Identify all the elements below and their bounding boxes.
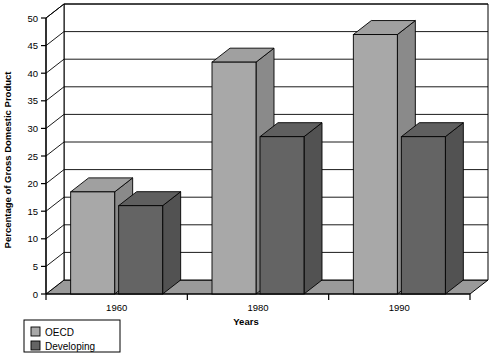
y-tick-label: 45 [27, 40, 38, 51]
legend-label-oecd: OECD [45, 327, 74, 338]
legend-label-developing: Developing [45, 341, 95, 352]
y-tick-label: 10 [27, 233, 38, 244]
y-axis [41, 18, 46, 294]
x-axis [46, 294, 470, 300]
y-tick-label: 40 [27, 68, 38, 79]
legend: OECDDeveloping [24, 320, 120, 352]
bar-side-face [163, 192, 181, 294]
y-tick-label: 5 [33, 261, 38, 272]
chart-container: 05101520253035404550 196019801990 Percen… [0, 0, 496, 355]
bar-side-face [304, 123, 322, 294]
y-tick-label: 25 [27, 151, 38, 162]
bar-developing-1960 [119, 192, 181, 294]
x-axis-title: Years [233, 316, 258, 327]
x-tick-label: 1990 [389, 302, 410, 313]
bar-side-face [445, 123, 463, 294]
bar-front-face [260, 137, 304, 294]
bar-front-face [401, 137, 445, 294]
x-tick-labels: 196019801990 [106, 302, 410, 313]
y-tick-labels: 05101520253035404550 [27, 13, 38, 300]
legend-swatch-oecd [31, 327, 40, 336]
y-tick-label: 30 [27, 123, 38, 134]
bar-front-face [119, 206, 163, 294]
bar-developing-1990 [401, 123, 463, 294]
y-tick-label: 15 [27, 206, 38, 217]
x-tick-label: 1960 [106, 302, 127, 313]
legend-swatch-developing [31, 341, 40, 350]
y-axis-title: Percentage of Gross Domestic Product [2, 71, 13, 249]
bar-front-face [71, 192, 115, 294]
bar-front-face [353, 35, 397, 294]
x-tick-label: 1980 [247, 302, 268, 313]
y-tick-label: 35 [27, 95, 38, 106]
y-tick-label: 20 [27, 178, 38, 189]
bar-chart: 05101520253035404550 196019801990 Percen… [0, 0, 496, 355]
y-tick-label: 50 [27, 13, 38, 24]
y-tick-label: 0 [33, 289, 38, 300]
bar-front-face [212, 62, 256, 294]
bar-developing-1980 [260, 123, 322, 294]
